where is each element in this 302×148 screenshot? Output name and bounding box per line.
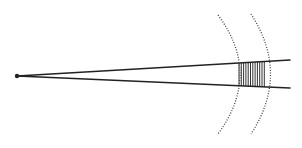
upper-ray xyxy=(17,60,290,76)
outer-wavefront xyxy=(251,14,271,134)
diagram-svg xyxy=(0,0,302,148)
point-source-icon xyxy=(15,74,19,78)
hatched-region xyxy=(239,50,264,100)
lower-ray xyxy=(17,76,290,88)
diagram-canvas xyxy=(0,0,302,148)
inner-wavefront xyxy=(218,15,240,134)
